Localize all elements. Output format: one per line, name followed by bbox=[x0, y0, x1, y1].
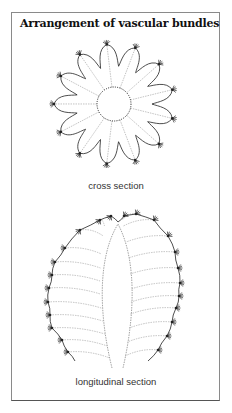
longitudinal-section-caption: longitudinal section bbox=[0, 376, 232, 387]
cross-section-caption: cross section bbox=[0, 180, 232, 191]
cross-section-diagram bbox=[0, 0, 232, 413]
